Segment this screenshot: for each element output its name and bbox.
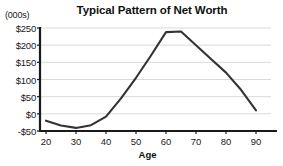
y-tick-label-150: $150 <box>0 57 36 68</box>
x-tick-label-90: 90 <box>251 136 262 147</box>
x-axis-title: Age <box>40 149 255 160</box>
y-tick-label-50: $50 <box>0 91 36 102</box>
tick-marks <box>37 28 256 134</box>
y-tick-label-200: $200 <box>0 40 36 51</box>
x-tick-label-70: 70 <box>191 136 202 147</box>
x-tick-label-20: 20 <box>41 136 52 147</box>
x-tick-label-50: 50 <box>131 136 142 147</box>
gridlines <box>40 28 271 131</box>
net-worth-line-chart: Typical Pattern of Net Worth (000s) -$50… <box>0 0 283 166</box>
x-tick-label-60: 60 <box>161 136 172 147</box>
x-tick-label-40: 40 <box>101 136 112 147</box>
x-tick-label-30: 30 <box>71 136 82 147</box>
x-tick-label-80: 80 <box>221 136 232 147</box>
y-tick-label--50: -$50 <box>0 126 36 137</box>
y-tick-label-100: $100 <box>0 74 36 85</box>
y-tick-label-0: $0 <box>0 108 36 119</box>
y-tick-label-250: $250 <box>0 23 36 34</box>
